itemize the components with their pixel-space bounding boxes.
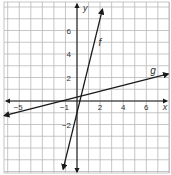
y-axis-label: y: [82, 3, 88, 13]
grid-frame: [4, 2, 169, 173]
x-tick-label: −5: [14, 103, 24, 112]
x-tick-label: 4: [121, 103, 126, 112]
axes: [6, 4, 167, 172]
label-g: g: [150, 65, 156, 76]
coordinate-plane: −5−1246642−2yxfg: [0, 0, 171, 175]
y-tick-label: −2: [62, 121, 72, 130]
x-tick-label: 2: [98, 103, 103, 112]
y-tick-label: 4: [67, 50, 72, 59]
x-tick-label: −1: [60, 103, 70, 112]
tick-labels: −5−1246642−2yxfg: [14, 3, 168, 130]
graph-svg: −5−1246642−2yxfg: [0, 0, 171, 175]
y-tick-label: 6: [67, 27, 72, 36]
x-tick-label: 6: [144, 103, 149, 112]
y-tick-label: 2: [67, 74, 72, 83]
x-axis-label: x: [162, 102, 168, 112]
grid-lines: [4, 2, 169, 173]
